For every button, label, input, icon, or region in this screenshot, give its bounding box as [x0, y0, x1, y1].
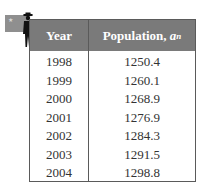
year-cell: 2004 — [30, 164, 88, 183]
table-header: Year Population, an — [30, 20, 195, 51]
population-cell: 1298.8 — [89, 164, 195, 183]
population-cell: 1260.1 — [89, 72, 195, 91]
population-cell: 1284.3 — [89, 127, 195, 146]
population-cell: 1276.9 — [89, 109, 195, 128]
table-body: 1998 1999 2000 2001 2002 2003 2004 1250.… — [30, 51, 195, 181]
population-cell: 1268.9 — [89, 90, 195, 109]
population-column: 1250.4 1260.1 1268.9 1276.9 1284.3 1291.… — [89, 51, 195, 181]
year-cell: 1998 — [30, 53, 88, 72]
population-table: Year Population, an 1998 1999 2000 2001 … — [29, 19, 196, 182]
population-cell: 1291.5 — [89, 146, 195, 165]
year-cell: 2003 — [30, 146, 88, 165]
year-cell: 1999 — [30, 72, 88, 91]
star-icon: ★ — [8, 17, 13, 23]
header-population-sub: n — [176, 31, 181, 41]
year-cell: 2000 — [30, 90, 88, 109]
year-cell: 2002 — [30, 127, 88, 146]
population-cell: 1250.4 — [89, 53, 195, 72]
header-population-label: Population, — [103, 28, 167, 44]
header-population: Population, an — [89, 20, 195, 51]
year-column: 1998 1999 2000 2001 2002 2003 2004 — [30, 51, 89, 181]
year-cell: 2001 — [30, 109, 88, 128]
header-year: Year — [30, 20, 89, 51]
